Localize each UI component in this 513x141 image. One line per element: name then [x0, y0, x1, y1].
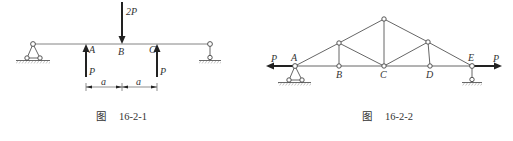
load-2P-arrow: [119, 2, 126, 44]
point-label-A: A: [88, 44, 96, 55]
node-upper-left: [337, 41, 341, 45]
node-upper-right: [426, 40, 430, 44]
caption-fig2-prefix: 图: [362, 111, 372, 122]
ground-hatch: [278, 83, 311, 86]
hinge-left: [31, 42, 36, 47]
node-label-A: A: [290, 52, 298, 63]
caption-fig1-prefix: 图: [96, 111, 106, 122]
label-P-right: P: [492, 53, 499, 64]
node-label-E: E: [467, 52, 474, 63]
dimension-a-right: a: [136, 76, 141, 87]
truss-members: [295, 19, 472, 66]
node-B: [337, 64, 341, 68]
label-P-left: P: [270, 53, 277, 64]
hinge-right: [208, 42, 213, 47]
dimension-line: [86, 83, 157, 91]
roller-support-right: [199, 42, 221, 64]
node-label-B: B: [336, 69, 342, 80]
dimension-a-left: a: [101, 76, 106, 87]
node-D: [428, 64, 432, 68]
caption-fig2-number: 16-2-2: [385, 111, 413, 122]
roller-support-E: [462, 66, 482, 86]
point-label-C: C: [149, 44, 156, 55]
figure-beam: 2P P P A B C a a: [16, 2, 221, 91]
point-label-B: B: [118, 46, 124, 57]
figure-truss: P P A B C D E: [266, 17, 502, 86]
node-label-D: D: [425, 69, 434, 80]
label-2P: 2P: [126, 6, 137, 17]
ground-hatch: [199, 61, 221, 64]
node-A: [293, 64, 298, 69]
node-apex: [382, 17, 386, 21]
ground-hatch: [16, 61, 50, 64]
node-C: [382, 64, 386, 68]
diagram-canvas: 2P P P A B C a a: [0, 0, 513, 141]
pin-support-A: [278, 66, 311, 86]
node-label-C: C: [380, 69, 387, 80]
caption-fig1-number: 16-2-1: [119, 111, 147, 122]
arrow-down-icon: [119, 36, 126, 44]
node-E: [470, 64, 475, 69]
ground-hatch: [462, 83, 482, 86]
label-P-A: P: [88, 66, 95, 77]
label-P-C: P: [159, 66, 166, 77]
pin-support-left: [16, 42, 50, 64]
